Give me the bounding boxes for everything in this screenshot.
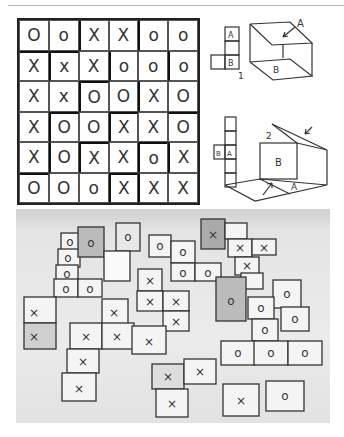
svg-text:×: × bbox=[29, 330, 39, 344]
svg-text:×: × bbox=[167, 397, 177, 411]
svg-text:×: × bbox=[259, 241, 269, 255]
grid-cell: X bbox=[168, 173, 198, 204]
grid-cell: x bbox=[49, 81, 79, 112]
svg-text:o: o bbox=[267, 346, 274, 360]
svg-text:o: o bbox=[156, 239, 163, 253]
grid-cell: X bbox=[109, 20, 139, 51]
svg-text:o: o bbox=[63, 267, 70, 281]
top-rule bbox=[8, 5, 344, 6]
grid-cell: O bbox=[109, 81, 139, 112]
svg-text:×: × bbox=[144, 335, 154, 349]
svg-text:o: o bbox=[64, 251, 71, 265]
svg-text:×: × bbox=[74, 382, 84, 396]
grid-cell: X bbox=[109, 173, 139, 204]
svg-text:o: o bbox=[281, 389, 288, 403]
net-label-b: B bbox=[228, 59, 234, 68]
svg-text:o: o bbox=[291, 312, 298, 326]
svg-text:o: o bbox=[179, 245, 186, 259]
grid-cell: X bbox=[138, 81, 168, 112]
svg-text:o: o bbox=[257, 301, 264, 315]
svg-text:×: × bbox=[112, 330, 122, 344]
grid-cell: O bbox=[19, 20, 49, 51]
grid-cell: X bbox=[19, 51, 49, 82]
grid-cell: X bbox=[109, 142, 139, 173]
svg-text:o: o bbox=[66, 235, 73, 249]
grid-cell: X bbox=[138, 112, 168, 143]
grid-cell: O bbox=[168, 81, 198, 112]
grid-cell: X bbox=[79, 51, 109, 82]
svg-text:×: × bbox=[171, 295, 181, 309]
svg-text:×: × bbox=[242, 259, 252, 273]
grid-cell: O bbox=[79, 81, 109, 112]
box-diagram-2: B A 2 B A bbox=[200, 105, 344, 210]
grid-cell: o bbox=[109, 51, 139, 82]
grid-cell: X bbox=[19, 112, 49, 143]
grid-cell: X bbox=[19, 81, 49, 112]
net-label-b: B bbox=[216, 150, 221, 158]
grid-cell: X bbox=[79, 20, 109, 51]
grid-cell: X bbox=[19, 142, 49, 173]
cube-label-a: A bbox=[297, 18, 304, 29]
svg-text:×: × bbox=[29, 306, 39, 320]
grid-cell: o bbox=[138, 20, 168, 51]
svg-text:×: × bbox=[235, 241, 245, 255]
grid-cell: O bbox=[79, 112, 109, 143]
box-label-b: B bbox=[275, 157, 282, 168]
svg-text:o: o bbox=[179, 266, 186, 280]
svg-text:o: o bbox=[87, 236, 94, 250]
svg-text:×: × bbox=[195, 365, 205, 379]
cube-label-b: B bbox=[273, 65, 279, 75]
svg-text:o: o bbox=[86, 282, 93, 296]
svg-text:×: × bbox=[81, 330, 91, 344]
svg-text:×: × bbox=[236, 394, 246, 408]
svg-text:o: o bbox=[234, 346, 241, 360]
grid-cell: x bbox=[49, 51, 79, 82]
grid-cell: X bbox=[79, 142, 109, 173]
grid-cell: o bbox=[168, 51, 198, 82]
svg-text:×: × bbox=[145, 295, 155, 309]
svg-text:×: × bbox=[163, 370, 173, 384]
svg-text:×: × bbox=[208, 228, 218, 242]
svg-text:×: × bbox=[78, 355, 88, 369]
net-label-a: A bbox=[228, 31, 234, 40]
grid-cell: O bbox=[168, 112, 198, 143]
grid-cell: o bbox=[138, 142, 168, 173]
svg-text:o: o bbox=[301, 346, 308, 360]
grid-cell: o bbox=[138, 51, 168, 82]
svg-text:o: o bbox=[62, 282, 69, 296]
svg-text:o: o bbox=[124, 230, 131, 244]
grid-cell: X bbox=[168, 142, 198, 173]
cube-nets-photo: ×× ××××× ×××× ××××× ×××× oooooo ooooo oo… bbox=[16, 209, 330, 423]
grid-cell: X bbox=[138, 173, 168, 204]
xo-grid: OoXXooXxXoooXxOOXOXOOXXOXOXXoXOOoXXX bbox=[17, 18, 200, 205]
grid-cell: O bbox=[49, 142, 79, 173]
svg-text:o: o bbox=[227, 294, 234, 308]
grid-cell: O bbox=[49, 112, 79, 143]
grid-cell: O bbox=[19, 173, 49, 204]
grid-cell: X bbox=[109, 112, 139, 143]
diagram-number-1: 1 bbox=[238, 71, 244, 81]
cube-diagram-1: A B 1 A B bbox=[200, 12, 344, 107]
grid-cell: o bbox=[79, 173, 109, 204]
grid-cell: o bbox=[49, 20, 79, 51]
diagram-number-2: 2 bbox=[266, 131, 272, 141]
svg-text:×: × bbox=[109, 306, 119, 320]
svg-text:o: o bbox=[283, 287, 290, 301]
svg-text:×: × bbox=[145, 274, 155, 288]
box-label-a: A bbox=[291, 182, 298, 192]
grid-cell: o bbox=[168, 20, 198, 51]
net-label-a: A bbox=[227, 150, 232, 158]
svg-text:o: o bbox=[204, 266, 211, 280]
grid-cell: O bbox=[49, 173, 79, 204]
svg-text:×: × bbox=[171, 315, 181, 329]
svg-text:o: o bbox=[261, 323, 268, 337]
